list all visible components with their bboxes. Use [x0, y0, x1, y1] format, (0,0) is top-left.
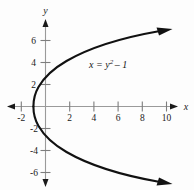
x-tick-label-6: 6: [116, 113, 121, 123]
x-axis-right-arrow-icon: [170, 103, 178, 109]
x-tick-label-10: 10: [162, 113, 172, 123]
x-tick-label--2: -2: [17, 113, 25, 123]
y-axis-label: y: [42, 5, 48, 16]
y-tick-label-4: 4: [31, 58, 36, 68]
equation-rhs: – 1: [114, 59, 128, 70]
y-tick-label-6: 6: [31, 36, 36, 46]
curve-equation-label: x = y2– 1: [88, 58, 127, 70]
x-tick-label-2: 2: [67, 113, 72, 123]
equation-exponent: 2: [110, 58, 114, 66]
curve-upper-arrow-icon: [157, 28, 173, 36]
parabola-figure: -2 2 4 6 8 10 6 4 2 -2 -4 -6 y x x = y2–…: [0, 0, 194, 190]
y-axis-down-arrow-icon: [43, 179, 49, 187]
equation-lhs: x = y: [88, 59, 110, 70]
graph-canvas: -2 2 4 6 8 10 6 4 2 -2 -4 -6 y x x = y2–…: [0, 0, 194, 190]
y-axis-up-arrow-icon: [43, 19, 49, 27]
x-tick-label-4: 4: [92, 113, 97, 123]
curve-lower-arrow-icon: [157, 177, 173, 185]
y-tick-label--6: -6: [30, 168, 38, 178]
y-tick-label-2: 2: [31, 80, 36, 90]
y-tick-label--4: -4: [30, 146, 38, 156]
x-axis-left-arrow-icon: [7, 103, 15, 109]
x-axis-label: x: [183, 101, 189, 112]
x-tick-label-8: 8: [140, 113, 145, 123]
